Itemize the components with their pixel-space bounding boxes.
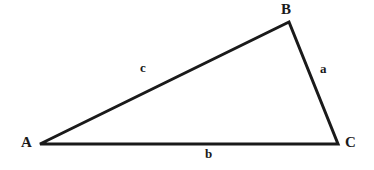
side-label-c: c — [140, 61, 146, 74]
vertex-label-b: B — [281, 2, 291, 17]
side-label-a: a — [320, 62, 327, 75]
side-label-b: b — [205, 147, 212, 160]
triangle-outline — [40, 22, 338, 144]
triangle-figure: A B C a b c — [0, 0, 374, 170]
vertex-label-c: C — [345, 135, 356, 150]
vertex-label-a: A — [21, 135, 32, 150]
triangle-svg — [0, 0, 374, 170]
